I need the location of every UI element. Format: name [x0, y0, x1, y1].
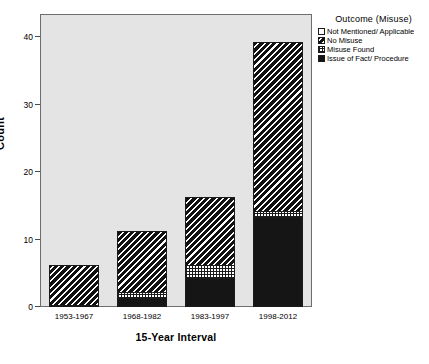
bar-segment-issue-of-fact: [186, 279, 234, 306]
legend: Outcome (Misuse) Not Mentioned/ Applicab…: [318, 14, 429, 63]
x-tick-label: 1998-2012: [244, 310, 312, 324]
legend-item-label: Not Mentioned/ Applicable: [327, 27, 414, 36]
stacked-bar[interactable]: [253, 42, 303, 307]
stacked-bar[interactable]: [117, 231, 167, 307]
legend-item-issue-of-fact-procedure[interactable]: Issue of Fact/ Procedure: [318, 54, 429, 63]
y-tick-0: 0: [0, 302, 40, 312]
y-axis-ticks: 0 10 20 30 40: [0, 0, 40, 364]
x-axis-title: 15-Year Interval: [40, 331, 312, 343]
bar-segment-misuse-found: [254, 212, 302, 219]
bars-container: [40, 14, 312, 307]
stacked-bar-chart: 0 10 20 30 40 Count: [0, 0, 429, 364]
stacked-bar[interactable]: [49, 265, 99, 308]
legend-item-label: No Misuse: [327, 36, 362, 45]
bar-segment-no-misuse: [50, 266, 98, 307]
legend-item-label: Issue of Fact/ Procedure: [327, 54, 409, 63]
legend-title: Outcome (Misuse): [318, 14, 429, 24]
legend-swatch-icon: [318, 55, 325, 62]
legend-item-label: Misuse Found: [327, 45, 374, 54]
bar-slot-1953-1967: [40, 14, 108, 307]
legend-item-misuse-found[interactable]: Misuse Found: [318, 45, 429, 54]
bar-slot-1968-1982: [108, 14, 176, 307]
legend-swatch-icon: [318, 28, 325, 35]
x-axis-tick-labels: 1953-1967 1968-1982 1983-1997 1998-2012: [40, 310, 312, 324]
bar-segment-no-misuse: [186, 198, 234, 266]
legend-swatch-icon: [318, 46, 325, 53]
bar-segment-misuse-found: [118, 293, 166, 300]
y-tick-30: 30: [0, 100, 40, 110]
y-tick-10: 10: [0, 235, 40, 245]
bar-slot-1983-1997: [176, 14, 244, 307]
x-tick-label: 1968-1982: [108, 310, 176, 324]
y-tick-40: 40: [0, 32, 40, 42]
bar-segment-no-misuse: [118, 232, 166, 293]
legend-item-no-misuse[interactable]: No Misuse: [318, 36, 429, 45]
x-tick-label: 1953-1967: [40, 310, 108, 324]
legend-item-not-mentioned-applicable[interactable]: Not Mentioned/ Applicable: [318, 27, 429, 36]
legend-swatch-icon: [318, 37, 325, 44]
bar-slot-1998-2012: [244, 14, 312, 307]
y-axis-title: Count: [0, 117, 6, 150]
y-tick-label: 0: [28, 302, 33, 312]
y-tick-label: 20: [24, 167, 33, 177]
stacked-bar[interactable]: [185, 197, 235, 307]
y-tick-label: 10: [24, 235, 33, 245]
x-tick-label: 1983-1997: [176, 310, 244, 324]
y-tick-label: 40: [24, 32, 33, 42]
bar-segment-issue-of-fact: [118, 299, 166, 306]
bar-segment-misuse-found: [186, 266, 234, 280]
bar-segment-issue-of-fact: [254, 218, 302, 306]
y-tick-20: 20: [0, 167, 40, 177]
y-tick-label: 30: [24, 100, 33, 110]
bar-segment-no-misuse: [254, 43, 302, 212]
